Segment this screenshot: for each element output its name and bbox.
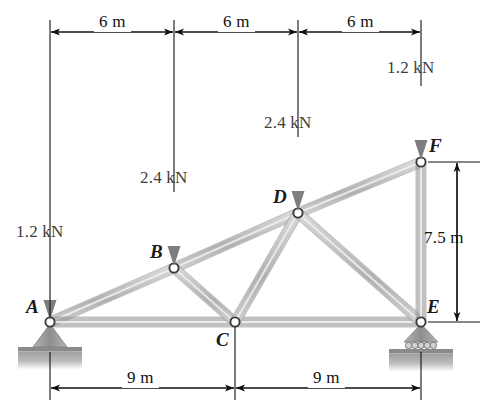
load-label-A: 1.2 kN: [16, 222, 63, 242]
bottom-dimension-label-0: 9 m: [122, 368, 159, 388]
joint-label-E: E: [427, 296, 440, 318]
joint-E: [416, 317, 425, 326]
truss-member-DE: [298, 213, 421, 322]
joint-label-B: B: [150, 241, 163, 263]
truss-diagram: ABCDEF1.2 kN2.4 kN2.4 kN1.2 kN6 m6 m6 m9…: [0, 0, 497, 415]
truss-member-BC: [174, 268, 235, 322]
load-label-F: 1.2 kN: [387, 58, 434, 78]
top-dimension-label-0: 6 m: [94, 12, 131, 32]
truss-member-DF: [298, 162, 421, 213]
right-dimension-label: 7.5 m: [424, 228, 464, 248]
joint-label-D: D: [273, 186, 287, 208]
truss-member-AB: [50, 268, 174, 322]
load-arrow-F: [415, 86, 428, 160]
joint-C: [230, 317, 239, 326]
top-dimension-label-1: 6 m: [218, 12, 255, 32]
top-dimension-label-2: 6 m: [342, 12, 379, 32]
load-label-B: 2.4 kN: [140, 168, 187, 188]
load-arrow-D: [292, 137, 305, 211]
load-arrows: [44, 86, 428, 320]
joint-label-C: C: [216, 329, 229, 351]
bottom-dimension-label-1: 9 m: [308, 368, 345, 388]
load-label-D: 2.4 kN: [264, 113, 311, 133]
truss-members: [50, 162, 421, 322]
load-arrow-B: [168, 192, 181, 266]
joint-label-F: F: [429, 135, 442, 157]
joint-label-A: A: [26, 296, 39, 318]
